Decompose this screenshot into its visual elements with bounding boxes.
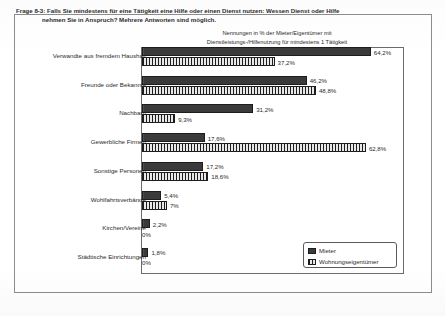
bar-mieter	[142, 47, 371, 56]
bar-mieter	[142, 248, 148, 257]
bar-eigentuemer	[142, 86, 316, 95]
legend-label-wohnungseigentuemer: Wohnungseigentümer	[319, 258, 379, 266]
legend-item: Wohnungseigentümer	[308, 257, 392, 267]
category-label: Wohlfahrtsverbände	[14, 196, 146, 204]
chart-row: Kirchen/Vereine2,2%0%	[0, 216, 418, 245]
bar-value-label: 48,8%	[319, 86, 336, 95]
legend-swatch-wohnungseigentuemer	[308, 259, 316, 265]
bar-mieter	[142, 76, 307, 85]
bar-mieter	[142, 191, 161, 200]
bar-value-label: 46,2%	[310, 76, 327, 85]
chart-row: Freunde oder Bekannte46,2%48,8%	[0, 73, 418, 102]
legend-swatch-mieter	[308, 248, 316, 254]
category-label: Nachbarn	[14, 109, 146, 117]
bar-value-label: 1,8%	[151, 248, 165, 257]
chart-row: Wohlfahrtsverbände5,4%7%	[0, 188, 418, 217]
bar-mieter	[142, 104, 253, 113]
bar-value-label: 0%	[142, 230, 151, 239]
bar-value-label: 2,2%	[153, 220, 167, 229]
bar-value-label: 37,2%	[278, 58, 295, 67]
category-label: Städtische Einrichtungen	[14, 253, 146, 261]
question-heading: Frage 8-3: Falls Sie mindestens für eine…	[16, 6, 402, 25]
bar-value-label: 17,2%	[206, 162, 223, 171]
question-heading-line1: Frage 8-3: Falls Sie mindestens für eine…	[16, 7, 339, 14]
bar-value-label: 62,8%	[369, 144, 386, 153]
bar-mieter	[142, 162, 203, 171]
question-heading-line2: nehmen Sie in Anspruch? Mehrere Antworte…	[16, 15, 402, 24]
chart-row: Sonstige Personen17,2%18,6%	[0, 159, 418, 188]
bar-value-label: 18,6%	[211, 172, 228, 181]
category-label: Kirchen/Vereine	[14, 224, 146, 232]
category-label: Verwandte aus fremdem Haushalt	[14, 52, 146, 60]
bar-eigentuemer	[142, 143, 366, 152]
bar-value-label: 5,4%	[164, 191, 178, 200]
legend-label-mieter: Mieter	[319, 247, 336, 255]
bar-eigentuemer	[142, 114, 175, 123]
bar-eigentuemer	[142, 172, 208, 181]
bar-value-label: 9,3%	[178, 115, 192, 124]
chart-legend: Mieter Wohnungseigentümer	[303, 242, 397, 268]
bar-value-label: 17,6%	[208, 134, 225, 143]
bar-value-label: 7%	[170, 201, 179, 210]
legend-item: Mieter	[308, 246, 392, 256]
bar-eigentuemer	[142, 201, 167, 210]
category-label: Gewerbliche Firmen	[14, 138, 146, 146]
chart-subtitle-line1: Nennungen in % der Mieter/Eigentümer mit	[141, 29, 413, 38]
bar-eigentuemer	[142, 57, 275, 66]
bar-value-label: 0%	[142, 258, 151, 267]
category-label: Sonstige Personen	[14, 167, 146, 175]
bar-mieter	[142, 219, 150, 228]
category-label: Freunde oder Bekannte	[14, 81, 146, 89]
chart-row: Verwandte aus fremdem Haushalt64,2%37,2%	[0, 44, 418, 73]
chart-row: Nachbarn31,2%9,3%	[0, 101, 418, 130]
bar-value-label: 64,2%	[374, 48, 391, 57]
bar-value-label: 31,2%	[256, 105, 273, 114]
chart-row: Gewerbliche Firmen17,6%62,8%	[0, 130, 418, 159]
bar-mieter	[142, 133, 205, 142]
